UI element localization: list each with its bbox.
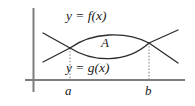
curve-g bbox=[43, 33, 178, 63]
area-between-curves-figure: y = f(x) A y = g(x) a b bbox=[0, 0, 195, 106]
upper-curve-label: y = f(x) bbox=[66, 9, 107, 23]
curve-f bbox=[43, 30, 178, 62]
region-label: A bbox=[101, 36, 109, 49]
right-bound-label: b bbox=[145, 84, 152, 97]
lower-curve-label: y = g(x) bbox=[66, 61, 110, 75]
left-bound-label: a bbox=[65, 84, 72, 97]
